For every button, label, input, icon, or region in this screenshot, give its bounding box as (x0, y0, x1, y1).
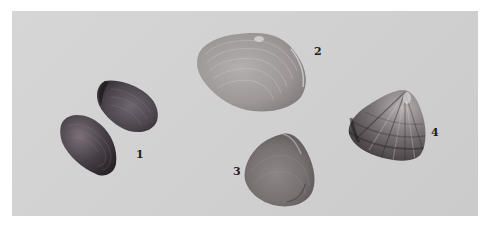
shell-specimen-2 (195, 31, 309, 113)
specimen-label-2: 2 (314, 46, 322, 57)
specimen-label-4: 4 (431, 127, 439, 138)
shell-2-graphic (195, 31, 309, 113)
shell-specimen-3 (243, 132, 317, 208)
shell-specimen-4 (347, 88, 427, 162)
shell-1b-graphic (95, 79, 160, 134)
specimen-label-3: 3 (233, 166, 241, 177)
shell-3-graphic (243, 132, 317, 208)
specimen-label-1: 1 (136, 149, 144, 160)
shell-specimen-1b (95, 79, 160, 134)
shell-4-graphic (347, 88, 427, 162)
